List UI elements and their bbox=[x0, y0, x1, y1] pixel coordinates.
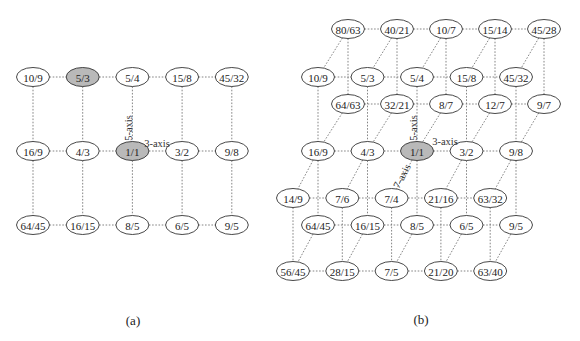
node-ratio-label: 6/5 bbox=[175, 220, 190, 232]
axis-label-3axis: 3-axis bbox=[432, 136, 458, 147]
lattice-node: 16/15 bbox=[351, 216, 384, 235]
lattice-node: 56/45 bbox=[277, 262, 310, 281]
lattice-node: 64/45 bbox=[302, 216, 335, 235]
node-ratio-label: 4/3 bbox=[360, 146, 375, 158]
node-ratio-label: 16/9 bbox=[308, 146, 328, 158]
panel-b-nodes: 80/6340/2110/715/1445/2864/6332/218/712/… bbox=[277, 20, 561, 281]
axis-label-7axis: 7-axis bbox=[391, 162, 413, 190]
node-ratio-label: 45/32 bbox=[219, 72, 244, 84]
lattice-edge-7-axis bbox=[495, 160, 511, 189]
lattice-edge-7-axis bbox=[347, 160, 362, 189]
panel-b-3x5x7-lattice: 80/6340/2110/715/1445/2864/6332/218/712/… bbox=[277, 20, 561, 327]
node-ratio-label: 12/7 bbox=[485, 99, 505, 111]
lattice-node: 21/20 bbox=[424, 262, 457, 281]
lattice-node: 14/9 bbox=[277, 189, 310, 208]
lattice-edge-7-axis bbox=[373, 38, 391, 68]
node-ratio-label: 5/4 bbox=[410, 72, 425, 84]
lattice-node: 10/9 bbox=[17, 68, 50, 87]
lattice-edge-7-axis bbox=[446, 160, 462, 189]
lattice-node: 5/3 bbox=[66, 68, 99, 87]
lattice-node: 4/3 bbox=[351, 142, 384, 161]
node-ratio-label: 9/7 bbox=[537, 99, 552, 111]
lattice-node: 16/15 bbox=[66, 216, 99, 235]
lattice-node: 9/5 bbox=[500, 216, 533, 235]
lattice-node: 15/8 bbox=[450, 68, 483, 87]
panel-b-caption: (b) bbox=[413, 312, 428, 327]
lattice-node: 40/21 bbox=[381, 20, 414, 39]
node-ratio-label: 4/3 bbox=[76, 146, 91, 158]
node-ratio-label: 64/45 bbox=[20, 220, 46, 232]
lattice-node: 5/4 bbox=[401, 68, 434, 87]
node-ratio-label: 3/2 bbox=[459, 146, 473, 158]
node-ratio-label: 5/3 bbox=[76, 72, 91, 84]
panel-a-3x5-lattice: 10/95/35/415/845/3216/94/31/13/29/864/45… bbox=[17, 68, 249, 328]
node-ratio-label: 40/21 bbox=[384, 24, 409, 36]
lattice-node: 9/5 bbox=[215, 216, 248, 235]
lattice-edge-7-axis bbox=[521, 38, 538, 68]
lattice-edge-7-axis bbox=[298, 234, 313, 262]
node-ratio-label: 21/16 bbox=[428, 193, 454, 205]
lattice-node: 15/14 bbox=[479, 20, 512, 39]
lattice-node: 3/2 bbox=[166, 142, 199, 161]
lattice-node: 10/9 bbox=[302, 68, 335, 87]
lattice-node: 28/15 bbox=[326, 262, 359, 281]
lattice-node: 32/21 bbox=[381, 95, 414, 114]
node-ratio-label: 9/8 bbox=[509, 146, 524, 158]
node-ratio-label: 5/4 bbox=[125, 72, 140, 84]
node-ratio-label: 15/14 bbox=[482, 24, 508, 36]
lattice-edge-7-axis bbox=[521, 113, 538, 142]
lattice-node: 12/7 bbox=[479, 95, 512, 114]
node-ratio-label: 80/63 bbox=[335, 24, 361, 36]
node-ratio-label: 7/6 bbox=[335, 193, 350, 205]
lattice-node: 64/63 bbox=[332, 95, 365, 114]
node-ratio-label: 16/15 bbox=[70, 220, 96, 232]
node-ratio-label: 5/3 bbox=[360, 72, 375, 84]
lattice-node: 45/28 bbox=[528, 20, 561, 39]
lattice-edge-7-axis bbox=[373, 113, 391, 142]
node-ratio-label: 1/1 bbox=[125, 146, 139, 158]
lattice-edge-7-axis bbox=[422, 38, 440, 68]
node-ratio-label: 63/32 bbox=[478, 193, 503, 205]
node-ratio-label: 10/9 bbox=[23, 72, 43, 84]
node-ratio-label: 9/5 bbox=[225, 220, 240, 232]
lattice-node: 15/8 bbox=[166, 68, 199, 87]
node-ratio-label: 14/9 bbox=[283, 193, 303, 205]
lattice-edge-7-axis bbox=[397, 234, 412, 262]
tonnetz-lattice-figure: 10/95/35/415/845/3216/94/31/13/29/864/45… bbox=[0, 0, 580, 341]
node-ratio-label: 3/2 bbox=[175, 146, 189, 158]
lattice-node: 9/8 bbox=[500, 142, 533, 161]
lattice-node: 8/7 bbox=[430, 95, 463, 114]
lattice-edge-7-axis bbox=[446, 234, 462, 262]
node-ratio-label: 10/7 bbox=[436, 24, 456, 36]
lattice-edge-7-axis bbox=[324, 38, 343, 68]
node-ratio-label: 56/45 bbox=[280, 266, 306, 278]
lattice-edge-7-axis bbox=[472, 113, 490, 142]
lattice-node: 9/7 bbox=[528, 95, 561, 114]
node-ratio-label: 64/45 bbox=[305, 220, 331, 232]
lattice-node: 16/9 bbox=[302, 142, 335, 161]
lattice-node: 4/3 bbox=[66, 142, 99, 161]
node-ratio-label: 9/8 bbox=[225, 146, 240, 158]
lattice-node: 8/5 bbox=[116, 216, 149, 235]
node-ratio-label: 1/1 bbox=[410, 146, 424, 158]
node-ratio-label: 15/8 bbox=[457, 72, 477, 84]
lattice-node: 7/6 bbox=[326, 189, 359, 208]
lattice-edge-7-axis bbox=[347, 234, 362, 262]
node-ratio-label: 9/5 bbox=[509, 220, 524, 232]
lattice-node: 80/63 bbox=[332, 20, 365, 39]
lattice-node: 63/40 bbox=[474, 262, 507, 281]
axis-label-5axis: 5-axis bbox=[408, 115, 419, 141]
lattice-edge-7-axis bbox=[298, 160, 313, 189]
node-ratio-label: 45/28 bbox=[531, 24, 557, 36]
lattice-node: 9/8 bbox=[215, 142, 248, 161]
node-ratio-label: 8/5 bbox=[410, 220, 425, 232]
node-ratio-label: 45/32 bbox=[503, 72, 528, 84]
lattice-node: 6/5 bbox=[166, 216, 199, 235]
node-ratio-label: 8/7 bbox=[439, 99, 454, 111]
lattice-node: 5/4 bbox=[116, 68, 149, 87]
node-ratio-label: 64/63 bbox=[335, 99, 361, 111]
lattice-node: 8/5 bbox=[401, 216, 434, 235]
lattice-node: 6/5 bbox=[450, 216, 483, 235]
node-ratio-label: 7/5 bbox=[385, 266, 400, 278]
lattice-node: 7/4 bbox=[375, 189, 408, 208]
